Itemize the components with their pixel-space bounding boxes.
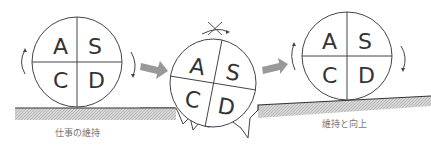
quadrant-s: S bbox=[358, 29, 372, 54]
wheel-right: A S C D bbox=[302, 12, 392, 100]
quadrant-d: D bbox=[88, 68, 105, 93]
caption-maintain-improve: 維持と向上 bbox=[322, 117, 367, 130]
quadrant-a: A bbox=[322, 29, 337, 54]
blocked-rotation-icon bbox=[202, 22, 230, 35]
caption-maintain: 仕事の維持 bbox=[55, 126, 100, 139]
quadrant-a: A bbox=[53, 34, 68, 59]
wheel-middle: A S C D bbox=[170, 39, 256, 127]
rotation-arrow-left-icon bbox=[292, 44, 295, 70]
rotation-arrow-left-icon bbox=[22, 50, 26, 74]
wheel-left: A S C D bbox=[32, 17, 122, 107]
rotation-arrow-right-icon bbox=[401, 46, 405, 70]
quadrant-c: C bbox=[53, 68, 68, 93]
progress-arrow-1-icon bbox=[140, 61, 168, 79]
rotation-arrow-right-icon bbox=[131, 52, 135, 76]
quadrant-d: D bbox=[358, 63, 375, 88]
quadrant-s: S bbox=[88, 34, 102, 59]
progress-arrow-2-icon bbox=[262, 58, 288, 74]
quadrant-c: C bbox=[322, 63, 337, 88]
